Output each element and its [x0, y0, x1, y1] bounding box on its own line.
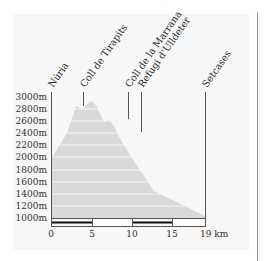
y-tick-label: 1400m: [16, 189, 48, 199]
y-tick-label: 1000m: [16, 213, 48, 223]
x-tick-label: 10: [126, 229, 138, 239]
y-tick-label: 2400m: [16, 128, 48, 138]
y-tick-label: 1200m: [16, 201, 48, 211]
waypoint-label-nuria: Núria: [46, 60, 71, 89]
y-tick-label: 2800m: [16, 104, 48, 114]
y-tick-label: 2000m: [16, 152, 48, 162]
x-tick-label: 19 km: [200, 229, 229, 239]
y-axis-labels: 3000m 2800m 2600m 2400m 2200m 2000m 1800…: [16, 92, 48, 223]
y-tick-label: 3000m: [16, 92, 48, 102]
scale-segment: [93, 219, 132, 226]
waypoint-label-coll-de-la-marrana: Coll de la Marrana: [123, 8, 184, 89]
waypoint-labels: Núria Coll de Tirapits Coll de la Marran…: [46, 8, 233, 89]
y-tick-label: 2200m: [16, 140, 48, 150]
waypoint-label-coll-de-tirapits: Coll de Tirapits: [78, 22, 130, 89]
x-tick-label: 0: [48, 229, 54, 239]
x-axis-labels: 0 5 10 15 19 km: [48, 229, 229, 239]
y-tick-label: 1600m: [16, 177, 48, 187]
x-tick-label: 15: [166, 229, 178, 239]
elevation-chart: 3000m 2800m 2600m 2400m 2200m 2000m 1800…: [0, 0, 265, 261]
y-tick-label: 1800m: [16, 165, 48, 175]
scale-segment: [173, 219, 205, 226]
y-tick-label: 2600m: [16, 116, 48, 126]
waypoint-label-setcases: Setcases: [200, 48, 233, 89]
x-tick-label: 5: [89, 229, 95, 239]
